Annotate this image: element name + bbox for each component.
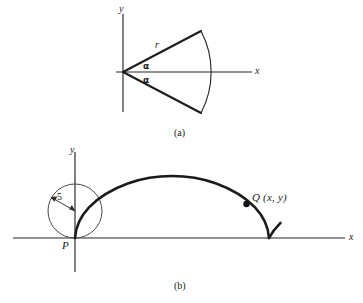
figure-vector-canvas [0, 0, 363, 303]
panel-a-upper-radius [123, 31, 201, 72]
panel-a-x-axis-label: x [255, 66, 259, 76]
panel-a-angle-upper-label: α [143, 62, 149, 71]
panel-a-angle-lower-label: α [143, 76, 149, 85]
panel-b-x-axis-label: x [349, 232, 353, 242]
point-q-label: Q (x, y) [252, 192, 287, 203]
panel-a-lower-radius [123, 72, 201, 113]
panel-a-caption: (a) [174, 128, 185, 138]
panel-b-caption: (b) [174, 281, 186, 291]
panel-b-y-axis-label: y [70, 145, 74, 155]
point-q-dot [243, 201, 249, 207]
panel-a-y-axis-label: y [119, 4, 123, 14]
cusp-tangent-tick [269, 223, 281, 238]
figure-root: y x r α α (a) y x 5 P Q (x, y) (b) [0, 0, 363, 303]
cycloid-curve [75, 176, 269, 238]
panel-a-radius-label: r [155, 40, 159, 50]
point-p-label: P [62, 240, 69, 251]
rolling-circle-radius-label: 5 [57, 192, 62, 202]
